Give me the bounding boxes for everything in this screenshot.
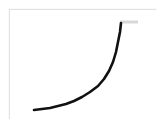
plot-frame (9, 9, 156, 119)
y-axis-label (0, 0, 1, 1)
curve-label: exponential growth curve (0, 0, 1, 1)
top-tick-label: upper tick mark (0, 0, 1, 1)
figure-title (0, 0, 1, 1)
x-axis-label (0, 0, 1, 1)
plot-background (10, 10, 157, 120)
figure-description: A thick black curve that is nearly flat … (0, 0, 1, 1)
figure-root: A thick black curve that is nearly flat … (0, 0, 166, 131)
plot-canvas (10, 10, 157, 120)
